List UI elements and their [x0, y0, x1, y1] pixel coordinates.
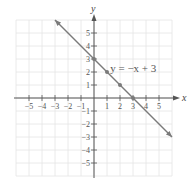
y-tick-label: 2 [86, 68, 90, 77]
coordinate-plane: x y −5−4−3−2−112345−5−4−3−2−112345 y = −… [0, 0, 190, 187]
x-axis-label: x [181, 92, 187, 103]
y-tick-label: −5 [81, 159, 90, 168]
y-axis-label: y [90, 3, 96, 14]
axes: x y [14, 3, 187, 178]
y-tick-label: −1 [81, 107, 90, 116]
x-tick-label: 5 [157, 102, 161, 111]
data-point [131, 96, 135, 100]
x-axis-arrow-icon [173, 96, 180, 101]
y-tick-label: 5 [86, 29, 90, 38]
y-tick-label: 3 [86, 55, 90, 64]
y-axis-arrow-icon [92, 14, 97, 21]
data-point [118, 83, 122, 87]
x-tick-label: 2 [118, 102, 122, 111]
equation-label: y = −x + 3 [110, 62, 157, 74]
y-tick-label: −2 [81, 120, 90, 129]
x-tick-label: 1 [105, 102, 109, 111]
x-tick-label: 3 [131, 102, 135, 111]
x-tick-label: −2 [64, 102, 73, 111]
data-point [105, 70, 109, 74]
series-line [55, 20, 172, 137]
y-tick-label: −3 [81, 133, 90, 142]
graph-line [55, 20, 172, 137]
x-tick-label: −3 [51, 102, 60, 111]
y-tick-label: −4 [81, 146, 90, 155]
x-tick-label: −4 [38, 102, 47, 111]
x-tick-label: −5 [25, 102, 34, 111]
y-tick-label: 1 [86, 81, 90, 90]
y-tick-label: 4 [86, 42, 90, 51]
data-point [92, 57, 96, 61]
